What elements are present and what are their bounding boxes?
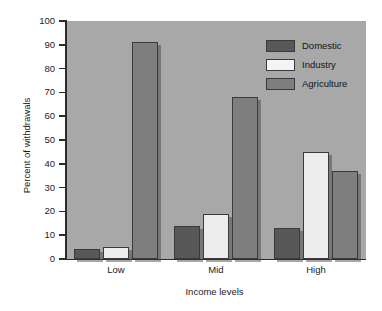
bar-high-agriculture — [332, 171, 358, 259]
y-tick-label-30: 30 — [15, 183, 55, 193]
bar-low-domestic — [74, 249, 100, 259]
y-tick-label-10: 10 — [15, 230, 55, 240]
bar-high-domestic — [274, 228, 300, 259]
y-tick-50 — [59, 139, 66, 141]
y-tick-label-90: 90 — [15, 40, 55, 50]
x-tick-label-low: Low — [86, 264, 146, 275]
y-tick-label-80: 80 — [15, 64, 55, 74]
legend-swatch-domestic — [266, 40, 295, 52]
y-tick-label-70: 70 — [15, 87, 55, 97]
legend-item-industry: Industry — [266, 55, 362, 74]
y-tick-60 — [59, 115, 66, 117]
bar-low-industry — [103, 247, 129, 259]
legend-label-agriculture: Agriculture — [302, 78, 347, 89]
y-tick-70 — [59, 92, 66, 94]
y-tick-30 — [59, 187, 66, 189]
y-tick-label-20: 20 — [15, 206, 55, 216]
y-tick-100 — [59, 20, 66, 22]
legend-item-agriculture: Agriculture — [266, 74, 362, 93]
bar-high-industry — [303, 152, 329, 259]
legend-item-domestic: Domestic — [266, 36, 362, 55]
legend-label-industry: Industry — [302, 59, 336, 70]
x-tick-label-high: High — [286, 264, 346, 275]
legend: DomesticIndustryAgriculture — [266, 36, 362, 93]
bar-low-agriculture — [132, 42, 158, 259]
y-tick-20 — [59, 211, 66, 213]
y-tick-label-100: 100 — [15, 16, 55, 26]
legend-swatch-industry — [266, 59, 295, 71]
bar-mid-industry — [203, 214, 229, 259]
y-tick-90 — [59, 44, 66, 46]
y-tick-label-40: 40 — [15, 159, 55, 169]
y-tick-label-0: 0 — [15, 254, 55, 264]
y-tick-0 — [59, 258, 66, 260]
y-tick-10 — [59, 234, 66, 236]
bar-chart: Percent of withdrawals Income levels 010… — [0, 0, 382, 311]
x-tick-label-mid: Mid — [186, 264, 246, 275]
legend-swatch-agriculture — [266, 78, 295, 90]
bar-mid-domestic — [174, 226, 200, 259]
y-tick-40 — [59, 163, 66, 165]
legend-label-domestic: Domestic — [302, 40, 342, 51]
y-tick-80 — [59, 68, 66, 70]
x-axis-title: Income levels — [62, 286, 367, 297]
y-tick-label-50: 50 — [15, 135, 55, 145]
y-tick-label-60: 60 — [15, 111, 55, 121]
bar-mid-agriculture — [232, 97, 258, 259]
